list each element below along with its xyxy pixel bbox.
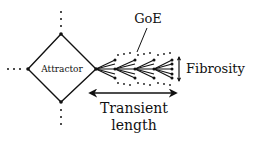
dotted-stub-bottom [60,109,62,125]
attractor-transient-diagram: Attractor [0,0,255,145]
transient-label-line2: length [111,117,156,133]
dotted-stub-left [7,68,21,70]
fibrosity-label: Fibrosity [186,61,246,76]
transient-label-line1: Transient [100,100,168,116]
goe-pointer [137,28,147,52]
dotted-stub-top [60,11,62,27]
goe-label: GoE [134,11,162,26]
attractor-label: Attractor [40,64,83,74]
attractor-node: Attractor [26,32,98,104]
